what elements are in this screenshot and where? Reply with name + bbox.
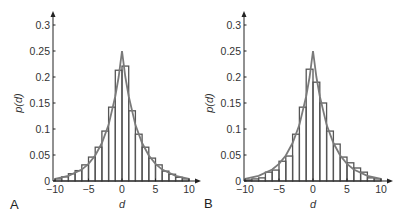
y-axis-label: p(d) <box>203 93 215 114</box>
histogram-bar <box>265 172 272 181</box>
y-axis-arrow-icon <box>242 11 247 17</box>
x-tick-label: 5 <box>153 183 159 195</box>
y-tick-label: 0.05 <box>30 149 51 161</box>
y-tick-label: 0.1 <box>226 123 241 135</box>
x-tick-label: 0 <box>119 183 125 195</box>
y-tick-label: 0.05 <box>221 149 242 161</box>
x-tick-label: −10 <box>236 183 254 195</box>
histogram-figure: 00.050.10.150.20.250.3−10−50510dp(d)A00.… <box>0 0 404 216</box>
histogram-bar <box>279 161 286 181</box>
x-tick-label: −5 <box>273 183 285 195</box>
y-tick-label: 0.3 <box>226 19 241 31</box>
x-tick-label: 10 <box>375 183 387 195</box>
x-axis-arrow-icon <box>195 179 201 184</box>
y-axis-arrow-icon <box>51 11 56 17</box>
histogram-bar <box>313 82 320 181</box>
chart-canvas: 00.050.10.150.20.250.3−10−50510dp(d)A00.… <box>0 0 404 216</box>
chart-panel-a: 00.050.10.150.20.250.3−10−50510dp(d)A <box>10 11 201 212</box>
y-axis-label: p(d) <box>12 93 24 114</box>
y-tick-label: 0.15 <box>30 97 51 109</box>
histogram-bar <box>320 103 327 181</box>
histogram-bar <box>272 170 279 181</box>
x-axis-label: d <box>119 198 126 210</box>
x-tick-label: 10 <box>183 183 195 195</box>
x-axis-label: d <box>310 198 317 210</box>
panel-label: A <box>10 197 19 212</box>
histogram-bars <box>55 66 189 181</box>
y-tick-label: 0.1 <box>35 123 50 135</box>
chart-panel-b: 00.050.10.150.20.250.3−10−50510dp(d)B <box>203 11 393 211</box>
histogram-bar <box>122 66 129 181</box>
x-tick-label: 5 <box>344 183 350 195</box>
y-tick-label: 0.25 <box>30 45 51 57</box>
x-tick-label: −5 <box>83 183 95 195</box>
y-tick-label: 0.3 <box>35 19 50 31</box>
histogram-bars <box>245 69 381 181</box>
x-tick-label: −10 <box>46 183 64 195</box>
y-tick-label: 0.15 <box>221 97 242 109</box>
x-tick-label: 0 <box>310 183 316 195</box>
panel-label: B <box>204 196 213 211</box>
y-tick-label: 0.2 <box>35 71 50 83</box>
x-axis-arrow-icon <box>387 179 393 184</box>
histogram-bar <box>286 156 293 181</box>
y-tick-label: 0.2 <box>226 71 241 83</box>
y-tick-label: 0.25 <box>221 45 242 57</box>
